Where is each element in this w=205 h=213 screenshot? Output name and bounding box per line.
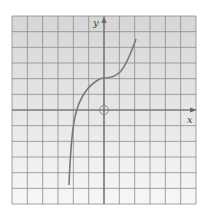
graph-figure: y x (0, 0, 205, 213)
x-axis-label: x (187, 114, 193, 125)
y-axis-label: y (92, 17, 99, 28)
